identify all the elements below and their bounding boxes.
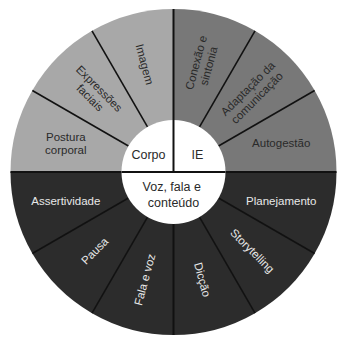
competency-wheel: Conexão esintoniaAdaptação dacomunicação… — [0, 0, 347, 339]
segment-label: Planejamento — [246, 195, 316, 207]
segment-label: Posturacorporal — [45, 131, 87, 156]
segment-label: Assertividade — [31, 195, 100, 207]
group-label-corpo: Corpo — [131, 148, 165, 162]
segment-label: Autogestão — [252, 137, 310, 149]
group-label-ie: IE — [192, 148, 204, 162]
